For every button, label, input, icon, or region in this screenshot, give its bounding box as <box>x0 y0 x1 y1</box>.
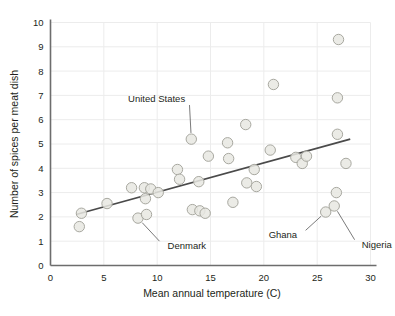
y-tick-label: 1 <box>38 236 43 247</box>
x-tick-label: 25 <box>312 272 323 283</box>
data-point <box>174 174 184 184</box>
y-tick-label: 5 <box>38 138 43 149</box>
annotation-label: United States <box>128 93 185 104</box>
y-tick-label: 3 <box>38 187 43 198</box>
data-point <box>268 79 278 89</box>
y-tick-label: 6 <box>38 114 43 125</box>
x-tick-label: 15 <box>205 272 216 283</box>
data-point <box>194 176 204 186</box>
data-point <box>102 198 112 208</box>
annotation-label: Nigeria <box>362 239 393 250</box>
data-point <box>341 158 351 168</box>
data-point <box>140 193 150 203</box>
x-tick-label: 5 <box>101 272 106 283</box>
trend-line <box>76 139 350 214</box>
data-point <box>242 178 252 188</box>
x-tick-label: 20 <box>259 272 270 283</box>
data-point <box>203 151 213 161</box>
grid-lines <box>51 23 371 266</box>
data-point <box>74 221 84 231</box>
data-point <box>200 208 210 218</box>
data-point <box>332 129 342 139</box>
y-axis-title: Number of spices per meat dish <box>8 70 20 218</box>
data-point <box>331 187 341 197</box>
data-point <box>222 138 232 148</box>
annotation-label: Denmark <box>168 240 207 251</box>
annotation-labels: United StatesDenmarkGhanaNigeria <box>128 93 392 251</box>
data-point <box>249 164 259 174</box>
data-point <box>228 197 238 207</box>
data-point <box>126 183 136 193</box>
data-point <box>333 34 343 44</box>
y-tick-labels: 012345678910 <box>33 17 44 271</box>
data-point <box>186 134 196 144</box>
y-tick-label: 2 <box>38 211 43 222</box>
annotation-leader-line <box>189 105 190 133</box>
y-tick-label: 10 <box>33 17 44 28</box>
annotation-leader-line <box>306 216 322 230</box>
data-point <box>251 181 261 191</box>
y-tick-label: 7 <box>38 90 43 101</box>
x-tick-label: 0 <box>48 272 53 283</box>
data-point <box>76 208 86 218</box>
chart-svg: 012345678910 051015202530 United StatesD… <box>0 0 395 316</box>
annotation-label: Ghana <box>269 229 298 240</box>
y-tick-label: 4 <box>38 163 43 174</box>
y-tick-label: 0 <box>38 260 43 271</box>
data-point <box>223 153 233 163</box>
data-point <box>265 145 275 155</box>
data-point <box>153 187 163 197</box>
y-tick-label: 8 <box>38 66 43 77</box>
scatter-chart: 012345678910 051015202530 United StatesD… <box>0 0 395 316</box>
data-point <box>329 201 339 211</box>
data-point <box>241 119 251 129</box>
x-tick-labels: 051015202530 <box>48 272 376 283</box>
x-tick-label: 30 <box>365 272 376 283</box>
data-point <box>141 209 151 219</box>
data-point <box>332 93 342 103</box>
annotation-leader-line <box>337 211 354 239</box>
data-point <box>301 151 311 161</box>
data-points <box>74 34 351 232</box>
x-axis-title: Mean annual temperature (C) <box>143 287 281 299</box>
y-tick-label: 9 <box>38 41 43 52</box>
data-point <box>172 164 182 174</box>
axis-lines <box>51 20 377 266</box>
trendline-segment <box>76 139 350 214</box>
x-tick-label: 10 <box>152 272 163 283</box>
